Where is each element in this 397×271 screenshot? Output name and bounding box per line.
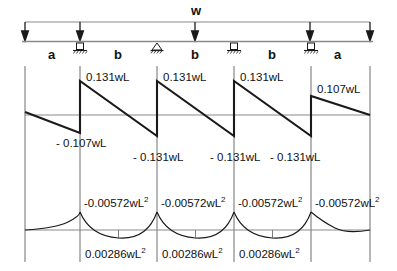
moment-label-sag-3: 0.00286wL2 <box>239 247 300 260</box>
moment-sag-3-exponent: 2 <box>295 246 299 255</box>
roller-support-icon-3 <box>227 43 241 54</box>
pin-support-icon-2 <box>151 43 164 53</box>
moment-label-hog-2: -0.00572wL2 <box>161 196 226 209</box>
roller-support-icon-4 <box>304 43 318 54</box>
roller-support-icon-1 <box>73 43 87 54</box>
moment-sag-1-exponent: 2 <box>141 246 145 255</box>
shear-label-pos-4: 0.107wL <box>317 84 360 96</box>
shear-label-pos-1: 0.131wL <box>86 72 129 84</box>
beam-analysis-diagram: w a b b b a 0.131wL 0.131wL 0.131wL 0.10… <box>0 0 397 271</box>
moment-sag-3-text: 0.00286wL <box>239 248 295 260</box>
moment-sag-2-exponent: 2 <box>218 246 222 255</box>
diagram-canvas <box>0 0 397 271</box>
moment-curve <box>25 212 370 238</box>
moment-hog-2-text: -0.00572wL <box>161 197 221 209</box>
load-label-w: w <box>191 4 201 17</box>
span-label-a-right: a <box>334 48 341 61</box>
moment-hog-1-exponent: 2 <box>144 195 148 204</box>
span-label-b-3: b <box>268 48 276 61</box>
shear-label-neg-1: - 0.107wL <box>56 138 107 150</box>
shear-label-neg-3: - 0.131wL <box>210 152 261 164</box>
span-label-a-left: a <box>48 48 55 61</box>
shear-label-neg-4: - 0.131wL <box>270 152 321 164</box>
moment-label-hog-4: -0.00572wL2 <box>315 196 380 209</box>
load-arrows <box>22 22 374 41</box>
moment-hog-3-text: -0.00572wL <box>238 197 298 209</box>
moment-hog-1-text: -0.00572wL <box>84 197 144 209</box>
moment-hog-4-text: -0.00572wL <box>315 197 375 209</box>
span-label-b-2: b <box>191 48 199 61</box>
moment-label-hog-1: -0.00572wL2 <box>84 196 149 209</box>
shear-label-pos-3: 0.131wL <box>240 72 283 84</box>
moment-label-hog-3: -0.00572wL2 <box>238 196 303 209</box>
shear-label-neg-2: - 0.131wL <box>133 152 184 164</box>
moment-hog-3-exponent: 2 <box>298 195 302 204</box>
shear-label-pos-2: 0.131wL <box>163 72 206 84</box>
moment-sag-2-text: 0.00286wL <box>162 248 218 260</box>
moment-label-sag-1: 0.00286wL2 <box>85 247 146 260</box>
moment-hog-4-exponent: 2 <box>375 195 379 204</box>
moment-label-sag-2: 0.00286wL2 <box>162 247 223 260</box>
span-label-b-1: b <box>114 48 122 61</box>
moment-hog-2-exponent: 2 <box>221 195 225 204</box>
moment-sag-1-text: 0.00286wL <box>85 248 141 260</box>
